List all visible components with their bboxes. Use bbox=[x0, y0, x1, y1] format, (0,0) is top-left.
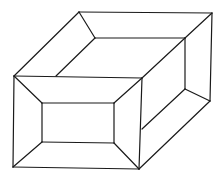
back-top-edge-line bbox=[79, 12, 212, 13]
inner-bottom-right-to-outer-line bbox=[185, 89, 210, 101]
outer-bottom-diagonal-line bbox=[139, 101, 210, 169]
front-outer-bottom-line bbox=[13, 167, 139, 169]
inner-bottom-diagonal-line bbox=[142, 89, 185, 129]
front-outer-left-line bbox=[13, 76, 14, 167]
front-outer-top-line bbox=[14, 76, 142, 78]
inner-right-diagonal-line bbox=[142, 38, 185, 78]
front-inner-bottom-line bbox=[42, 142, 114, 143]
bevel-top-left-line bbox=[14, 76, 42, 103]
ambiguous-box-figure bbox=[0, 0, 223, 185]
bevel-bottom-right-line bbox=[114, 143, 139, 169]
left-top-diagonal-line bbox=[14, 12, 79, 76]
top-right-to-inner-line bbox=[185, 13, 212, 38]
top-corner-to-inner-line bbox=[79, 12, 95, 38]
bevel-bottom-left-line bbox=[13, 142, 42, 167]
front-outer-right-line bbox=[139, 78, 142, 169]
right-outer-vertical-line bbox=[210, 13, 212, 101]
inner-left-diagonal-line bbox=[56, 38, 95, 76]
bevel-top-right-line bbox=[114, 78, 142, 103]
